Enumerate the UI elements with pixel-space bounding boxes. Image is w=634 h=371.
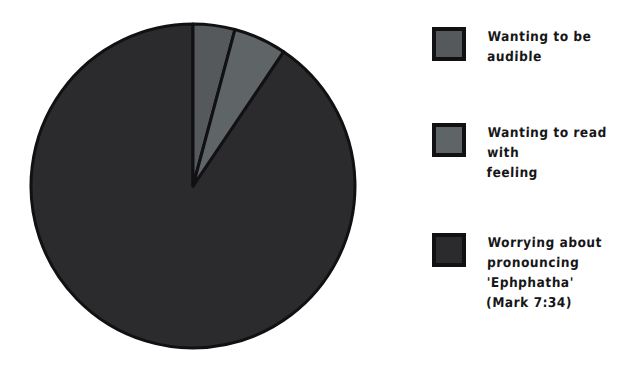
chart-legend: Wanting to be audible Wanting to read wi… <box>432 14 632 314</box>
legend-swatch-audible <box>432 27 466 61</box>
pie-plot-area <box>20 8 380 368</box>
legend-swatch-worrying <box>432 233 466 267</box>
legend-label-feeling: Wanting to read with feeling <box>486 122 632 182</box>
legend-item-worrying[interactable]: Worrying about pronouncing 'Ephphatha' (… <box>432 232 632 312</box>
legend-label-audible: Wanting to be audible <box>487 26 632 66</box>
legend-swatch-feeling <box>432 123 466 157</box>
pie-chart-figure: Wanting to be audible Wanting to read wi… <box>0 0 634 371</box>
legend-label-worrying: Worrying about pronouncing 'Ephphatha' (… <box>486 232 632 312</box>
pie-svg <box>20 8 380 368</box>
legend-item-audible[interactable]: Wanting to be audible <box>432 26 632 66</box>
legend-item-feeling[interactable]: Wanting to read with feeling <box>432 122 632 182</box>
